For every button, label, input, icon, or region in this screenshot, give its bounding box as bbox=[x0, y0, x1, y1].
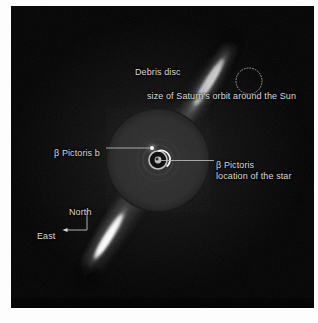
label-planet-beta-pictoris-b: β Pictoris b bbox=[54, 148, 100, 159]
label-star-name: β Pictoris bbox=[216, 160, 254, 170]
label-compass-north: North bbox=[69, 207, 92, 218]
label-star-description: location of the star bbox=[216, 171, 292, 182]
label-star-group: β Pictoris location of the star bbox=[216, 160, 292, 182]
label-debris-disc: Debris disc bbox=[135, 67, 181, 78]
label-saturn-orbit: size of Saturn's orbit around the Sun bbox=[147, 91, 296, 102]
sky-image: Debris disc size of Saturn's orbit aroun… bbox=[11, 6, 314, 308]
figure-root: Debris disc size of Saturn's orbit aroun… bbox=[0, 0, 318, 323]
label-compass-east: East bbox=[37, 231, 55, 242]
scan-bottom-band bbox=[11, 298, 314, 308]
